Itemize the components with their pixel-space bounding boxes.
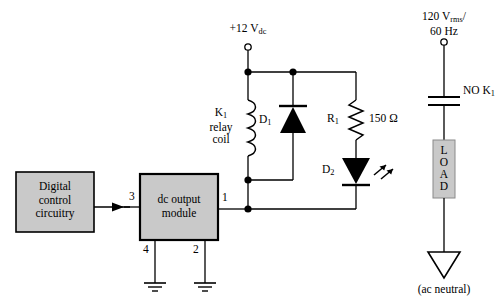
relay-coil-line3: coil [212,133,229,145]
diode-d1-label: D1 [259,113,271,128]
resistor-r1-icon [349,100,363,140]
dc-supply-terminal-icon [245,44,251,50]
no-contact-subscript: 1 [491,89,495,98]
resistor-r1-value: 150 Ω [369,112,398,125]
signal-arrowhead-icon [112,203,124,212]
led-d2-ref-subscript: 2 [330,168,334,177]
d1-anode-triangle-icon [280,107,306,133]
relay-coil-icon [248,100,256,156]
led-d2-label: D2 [322,163,334,178]
load-label: L O A D [433,144,455,192]
terminal-2-label: 2 [193,243,199,256]
circuit-diagram: Digital control circuitry dc output modu… [0,0,503,307]
digital-control-line1: Digital [39,180,71,192]
resistor-r1-ref: R [327,112,335,124]
ac-supply-slash: / [463,10,466,22]
digital-control-label: Digital control circuitry [16,180,94,221]
diode-d1-ref-subscript: 1 [267,118,271,127]
no-contact-label: NO K1 [463,84,495,99]
dc-supply-value: +12 V [230,22,259,34]
load-letter-2: A [433,168,455,180]
relay-coil-label: K1 relay coil [198,106,244,146]
terminal-3-label: 3 [129,190,135,203]
load-letter-0: L [433,144,455,156]
dc-output-module-line1: dc output [157,193,200,205]
load-letter-1: O [433,156,455,168]
dc-output-module-line2: module [162,207,197,219]
no-contact-text: NO K [463,84,491,96]
digital-control-line2: control [39,194,72,206]
terminal-4-label: 4 [143,243,149,256]
dc-supply-label: +12 Vdc [205,22,291,37]
relay-coil-ref: K [215,106,223,118]
ac-supply-label: 120 Vrms/ 60 Hz [399,10,489,37]
dc-supply-subscript: dc [259,27,267,36]
ac-supply-subscript: rms [450,15,462,24]
load-letter-3: D [433,180,455,192]
ac-supply-value: 120 V [422,10,450,22]
dc-output-module-label: dc output module [140,193,218,220]
relay-coil-line2: relay [210,121,233,133]
resistor-r1-label: R1 [327,112,339,127]
ac-neutral-triangle-icon [428,252,460,278]
relay-coil-ref-subscript: 1 [223,111,227,120]
ac-supply-terminal-icon [441,39,447,45]
d2-led-triangle-icon [342,158,370,184]
digital-control-line3: circuitry [36,207,75,219]
resistor-r1-ref-subscript: 1 [335,117,339,126]
terminal-1-label: 1 [222,191,228,204]
ac-supply-frequency: 60 Hz [430,25,458,37]
ac-neutral-label: (ac neutral) [396,283,492,296]
schematic-drawing [0,0,503,307]
led-emission-arrows-icon [374,165,393,179]
